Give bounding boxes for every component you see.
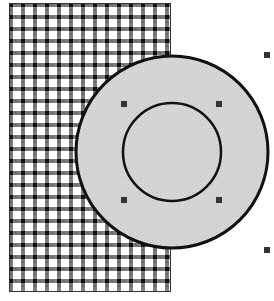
resize-handle-inner-bottom-left[interactable] xyxy=(121,197,127,203)
drawing-canvas[interactable] xyxy=(0,0,274,301)
resize-handle-inner-top-right[interactable] xyxy=(216,101,222,107)
outer-circle-shape[interactable] xyxy=(76,56,268,248)
resize-handle-outer-bottom-right[interactable] xyxy=(264,247,270,253)
resize-handle-inner-bottom-right[interactable] xyxy=(216,197,222,203)
resize-handle-outer-top-right[interactable] xyxy=(264,52,270,58)
resize-handle-inner-top-left[interactable] xyxy=(121,101,127,107)
